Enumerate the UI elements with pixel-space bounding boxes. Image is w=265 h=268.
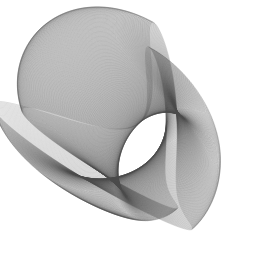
artwork-canvas: Harmonograph curve family A dense family… [0,0,265,268]
harmonograph-figure: Harmonograph curve family A dense family… [0,0,265,268]
